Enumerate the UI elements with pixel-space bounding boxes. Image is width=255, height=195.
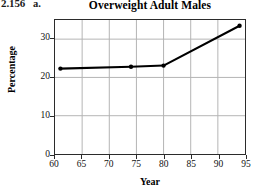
x-tick-label: 95 xyxy=(234,160,255,170)
y-tick-label: 0 xyxy=(28,150,50,160)
y-tick-mark xyxy=(50,116,54,117)
data-point-marker xyxy=(129,65,133,69)
x-axis-title: Year xyxy=(54,176,246,187)
data-point-marker xyxy=(161,63,165,67)
data-series-line xyxy=(60,26,239,69)
data-point-marker xyxy=(237,24,241,28)
x-tick-label: 90 xyxy=(207,160,231,170)
y-axis-title: Percentage xyxy=(6,30,17,110)
x-tick-label: 60 xyxy=(42,160,66,170)
figure: 2.156 a. Overweight Adult Males Percenta… xyxy=(0,0,255,195)
vertical-gridlines xyxy=(82,20,218,154)
x-tick-mark xyxy=(54,155,55,159)
plot-area xyxy=(54,19,246,155)
x-tick-label: 65 xyxy=(69,160,93,170)
x-tick-label: 80 xyxy=(152,160,176,170)
x-tick-mark xyxy=(219,155,220,159)
chart-title: Overweight Adult Males xyxy=(54,0,246,11)
y-tick-mark xyxy=(50,77,54,78)
x-tick-mark xyxy=(246,155,247,159)
data-series-markers xyxy=(58,24,241,71)
y-tick-label: 10 xyxy=(28,111,50,121)
x-tick-label: 70 xyxy=(97,160,121,170)
x-tick-mark xyxy=(191,155,192,159)
x-tick-mark xyxy=(109,155,110,159)
horizontal-gridlines xyxy=(55,39,245,116)
y-tick-label: 30 xyxy=(28,33,50,43)
data-point-marker xyxy=(58,66,62,70)
plot-svg xyxy=(55,20,245,154)
problem-part-label: a. xyxy=(33,0,41,9)
y-tick-mark xyxy=(50,38,54,39)
x-tick-label: 85 xyxy=(179,160,203,170)
x-tick-mark xyxy=(136,155,137,159)
x-tick-mark xyxy=(164,155,165,159)
y-axis-tick-labels: 0102030 xyxy=(26,19,50,155)
x-axis-tick-labels: 6065707580859095 xyxy=(54,160,246,172)
y-tick-label: 20 xyxy=(28,72,50,82)
problem-number: 2.156 xyxy=(1,0,25,9)
x-tick-label: 75 xyxy=(124,160,148,170)
x-tick-mark xyxy=(81,155,82,159)
